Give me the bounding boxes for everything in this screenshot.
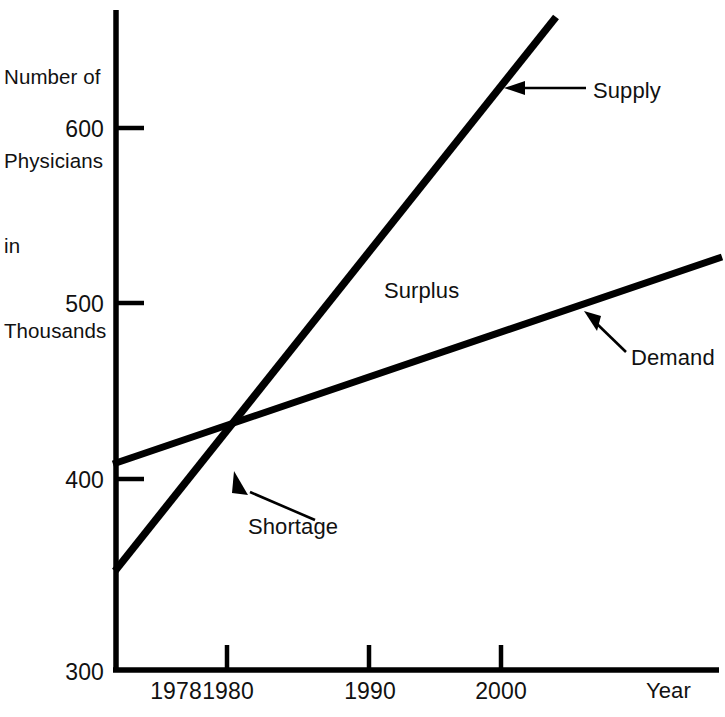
- y-axis-title: Number of Physicians in Thousands: [4, 6, 106, 402]
- y-tick-label-300: 300: [32, 657, 104, 687]
- y-tick-label-500: 500: [32, 289, 104, 319]
- x-tick-label-2000: 2000: [456, 676, 546, 706]
- annotation-label-surplus: Surplus: [384, 276, 459, 305]
- chart-canvas: [0, 0, 725, 717]
- y-axis-title-line-4: Thousands: [4, 317, 106, 345]
- y-tick-label-400: 400: [32, 465, 104, 495]
- physician-supply-demand-chart: Number of Physicians in Thousands 600 50…: [0, 0, 725, 717]
- annotation-label-shortage: Shortage: [248, 512, 338, 541]
- demand-leader-line: [595, 322, 626, 352]
- axes-group: [113, 10, 719, 672]
- demand-arrowhead: [584, 311, 601, 331]
- x-tick-label-1980: 1980: [183, 676, 273, 706]
- annotation-label-supply: Supply: [593, 76, 661, 105]
- x-tick-marks: [227, 645, 501, 670]
- y-axis-title-line-1: Number of: [4, 63, 106, 91]
- y-axis-title-line-2: Physicians: [4, 147, 106, 175]
- y-tick-marks: [116, 128, 144, 479]
- x-tick-label-1990: 1990: [325, 676, 415, 706]
- shortage-arrowhead: [232, 471, 248, 495]
- annotation-label-demand: Demand: [631, 343, 715, 372]
- series-line-supply: [115, 17, 556, 571]
- y-tick-label-600: 600: [32, 114, 104, 144]
- y-axis-title-line-3: in: [4, 232, 106, 260]
- x-axis-title: Year: [646, 676, 691, 705]
